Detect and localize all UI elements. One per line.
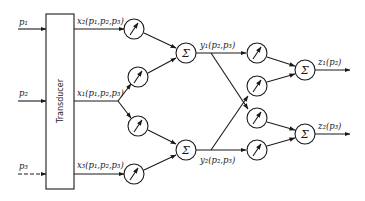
- sigma-icon: Σ: [181, 47, 190, 60]
- weight-node-3: [128, 116, 148, 136]
- input-label-p2: p₂: [19, 88, 28, 98]
- output-label-x3: x₃(p₁,p₂,p₃): [77, 160, 124, 170]
- sigma-icon: Σ: [300, 128, 309, 141]
- weight-node-6: [247, 76, 267, 96]
- input-label-p1: p₁: [19, 17, 28, 27]
- weight-node-2: [128, 67, 148, 87]
- output-label-y1: y₁(p₂,p₃): [199, 40, 235, 50]
- output-label-x1: x₁(p₁,p₂,p₃): [77, 88, 124, 98]
- output-label-x2: x₂(p₁,p₂,p₃): [77, 16, 124, 26]
- output-x3: x₃(p₁,p₂,p₃): [74, 160, 124, 174]
- input-p1: p₁: [18, 17, 46, 29]
- input-p2: p₂: [18, 88, 46, 101]
- output-x1: x₁(p₁,p₂,p₃): [74, 84, 131, 118]
- weight-node-7: [247, 108, 267, 128]
- summer-node-z1: Σ: [295, 60, 315, 80]
- transducer-block: Transducer: [46, 14, 74, 189]
- sigma-icon: Σ: [181, 144, 190, 157]
- transducer-network-diagram: p₁ p₂ p₃ Transducer x₂(p₁,p₂,p₃) x₁(p₁,p…: [0, 0, 365, 201]
- input-label-p3: p₃: [19, 161, 28, 171]
- output-x2: x₂(p₁,p₂,p₃): [74, 16, 124, 29]
- output-label-z1: z₁(p₂): [317, 57, 341, 67]
- weight-node-4: [124, 164, 144, 184]
- summer-node-z2: Σ: [295, 124, 315, 144]
- summer-node-y1: Σ: [176, 43, 196, 63]
- weight-node-8: [247, 140, 267, 160]
- transducer-label: Transducer: [56, 78, 65, 124]
- weight-node-1: [124, 19, 144, 39]
- sigma-icon: Σ: [300, 64, 309, 77]
- output-label-y2: y₂(p₂,p₃): [199, 155, 235, 165]
- input-p3: p₃: [18, 161, 46, 174]
- weight-node-5: [247, 43, 267, 63]
- summer-node-y2: Σ: [176, 140, 196, 160]
- output-label-z2: z₂(p₃): [317, 121, 341, 131]
